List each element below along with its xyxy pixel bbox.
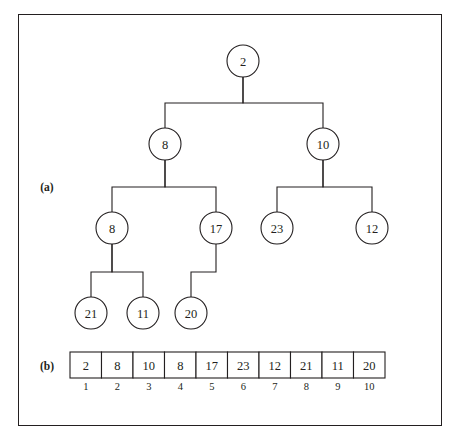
- tree-node-label-n2: 8: [162, 138, 168, 152]
- array-index-10: 10: [364, 381, 375, 392]
- array-index-4: 4: [178, 381, 184, 392]
- array-cell-value-7: 12: [269, 359, 282, 373]
- tree-edge-n4-n8: [91, 244, 112, 297]
- array-cell-value-10: 20: [363, 359, 376, 373]
- binary-tree-and-array-diagram: 2810817231221112021821038417523612721811…: [0, 0, 460, 445]
- tree-edge-n1-n2: [165, 77, 243, 128]
- array-cell-value-8: 21: [300, 359, 313, 373]
- part-a-label: (a): [40, 181, 54, 194]
- array-index-3: 3: [146, 381, 151, 392]
- tree-node-label-n5: 17: [210, 222, 223, 236]
- array-index-9: 9: [335, 381, 340, 392]
- tree-edge-n4-n9: [112, 244, 143, 297]
- array-index-1: 1: [83, 381, 88, 392]
- tree-edge-n2-n5: [165, 160, 216, 212]
- array-index-8: 8: [304, 381, 309, 392]
- tree-edge-n3-n6: [277, 160, 323, 212]
- tree-edge-n3-n7: [323, 160, 372, 212]
- tree-node-label-n9: 11: [137, 307, 149, 321]
- tree-edge-n5-n10: [191, 244, 216, 297]
- array-index-7: 7: [272, 381, 277, 392]
- tree-node-label-n7: 12: [366, 222, 379, 236]
- figure-root: 2810817231221112021821038417523612721811…: [0, 0, 460, 445]
- array-index-2: 2: [115, 381, 120, 392]
- tree-node-label-n8: 21: [85, 307, 98, 321]
- tree-edge-n1-n3: [243, 77, 323, 128]
- array-cell-value-9: 11: [332, 359, 344, 373]
- tree-node-label-n6: 23: [271, 222, 284, 236]
- array-index-6: 6: [241, 381, 246, 392]
- array-cell-value-5: 17: [206, 359, 219, 373]
- tree-node-label-n4: 8: [109, 222, 115, 236]
- array-cell-value-6: 23: [237, 359, 250, 373]
- tree-node-label-n1: 2: [240, 55, 246, 69]
- array-cell-value-1: 2: [83, 359, 89, 373]
- tree-edge-n2-n4: [112, 160, 165, 212]
- array-index-5: 5: [209, 381, 214, 392]
- tree-node-label-n3: 10: [317, 138, 330, 152]
- array-cell-value-2: 8: [114, 359, 120, 373]
- array-cell-value-3: 10: [143, 359, 156, 373]
- array-cell-value-4: 8: [177, 359, 183, 373]
- part-b-label: (b): [40, 360, 54, 373]
- tree-node-label-n10: 20: [185, 307, 198, 321]
